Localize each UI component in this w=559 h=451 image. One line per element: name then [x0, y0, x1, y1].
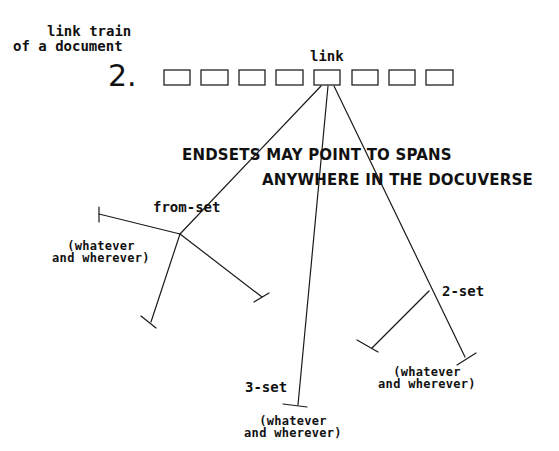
header-line-2: of a document [13, 39, 123, 53]
link-train-boxes [164, 70, 453, 85]
link-train-box [239, 70, 265, 85]
two-set-tick-right [457, 353, 476, 365]
link-train-box [389, 70, 415, 85]
link-train-box [276, 70, 303, 85]
from-set-label: from-set [153, 200, 220, 214]
two-set-connector [334, 86, 465, 357]
two-set-note: (whatever and wherever) [374, 366, 480, 390]
three-set-label: 3-set [245, 380, 287, 394]
from-set-tick-right [254, 293, 269, 302]
caption-line-1: ENDSETS MAY POINT TO SPANS [182, 148, 452, 163]
two-set-note-line-2: and wherever) [374, 378, 480, 390]
link-label: link [310, 49, 344, 63]
two-set-tick-left [357, 340, 378, 352]
three-set-connector [298, 86, 328, 405]
caption-line-2: ANYWHERE IN THE DOCUVERSE [262, 173, 533, 188]
from-set-note: (whatever and wherever) [48, 240, 154, 264]
three-set-note-line-2: and wherever) [240, 427, 346, 439]
three-set-tick [283, 404, 307, 407]
document-number: 2. [108, 61, 137, 91]
header-line-1: link train [47, 24, 131, 38]
endset-lines [99, 86, 476, 407]
link-train-box [164, 70, 190, 85]
from-set-span-down [151, 234, 180, 322]
three-set-note: (whatever and wherever) [240, 415, 346, 439]
link-train-box [426, 70, 453, 85]
link-train-box [352, 70, 378, 85]
from-set-note-line-2: and wherever) [48, 252, 154, 264]
two-set-span-left [372, 291, 429, 348]
link-box [314, 70, 340, 85]
two-set-label: 2-set [442, 284, 484, 298]
from-set-span-right [180, 234, 262, 297]
link-train-box [201, 70, 228, 85]
from-set-span-left [99, 214, 180, 234]
from-set-tick-down [141, 316, 156, 328]
